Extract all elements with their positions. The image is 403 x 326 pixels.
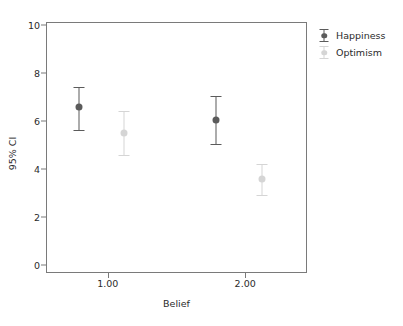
y-tick-label: 10 (0, 20, 40, 31)
legend-label: Happiness (336, 31, 385, 41)
x-tick-label: 1.00 (97, 278, 118, 289)
y-tick-mark (41, 25, 46, 26)
x-axis-title: Belief (46, 298, 307, 309)
error-bar-optimism-2.00 (254, 164, 270, 195)
legend-item-optimism[interactable]: Optimism (318, 44, 385, 61)
y-tick-label: 2 (0, 212, 40, 223)
legend-label: Optimism (336, 48, 382, 58)
y-tick-label: 4 (0, 164, 40, 175)
error-bar-happiness-2.00 (208, 96, 224, 144)
error-bar-cap-lower (73, 130, 84, 131)
legend-item-happiness[interactable]: Happiness (318, 27, 385, 44)
plot-area (46, 22, 307, 273)
data-point-marker (258, 176, 265, 183)
chart-legend: HappinessOptimism (318, 27, 385, 61)
data-point-marker (121, 129, 128, 136)
y-tick-label: 0 (0, 260, 40, 271)
legend-marker-icon (318, 45, 330, 60)
error-bar-cap-lower (256, 195, 267, 196)
error-bar-cap-lower (211, 144, 222, 145)
y-tick-mark (41, 217, 46, 218)
x-tick-mark (245, 273, 246, 278)
chart-container: 95% CI Belief 0246810 1.002.00 Happiness… (0, 0, 403, 326)
y-tick-label: 6 (0, 116, 40, 127)
error-bar-cap-upper (211, 96, 222, 97)
y-tick-label: 8 (0, 68, 40, 79)
x-tick-mark (108, 273, 109, 278)
x-tick-label: 2.00 (235, 278, 256, 289)
error-bar-cap-upper (119, 111, 130, 112)
error-bar-cap-lower (119, 155, 130, 156)
y-tick-mark (41, 121, 46, 122)
y-tick-mark (41, 73, 46, 74)
error-bar-cap-upper (256, 164, 267, 165)
error-bar-cap-upper (73, 87, 84, 88)
error-bar-optimism-1.00 (116, 111, 132, 155)
data-point-marker (75, 104, 82, 111)
error-bar-happiness-1.00 (71, 87, 87, 130)
legend-marker-icon (318, 28, 330, 43)
y-tick-mark (41, 265, 46, 266)
data-point-marker (213, 117, 220, 124)
y-tick-mark (41, 169, 46, 170)
